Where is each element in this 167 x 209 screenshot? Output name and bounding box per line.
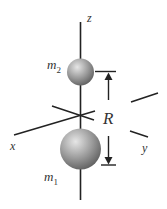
mass-m1-label: m1 <box>44 169 58 187</box>
x-axis-label: x <box>9 139 16 153</box>
two-body-diagram: z x y R m2 m1 <box>0 0 167 209</box>
distance-label: R <box>102 109 114 128</box>
y-axis-far <box>130 131 148 137</box>
mass-m2-label: m2 <box>47 57 61 75</box>
x-axis-far <box>131 93 158 102</box>
r-down-arrow-icon <box>105 157 113 165</box>
y-axis-label: y <box>141 141 148 155</box>
mass-m2-sphere <box>67 59 94 86</box>
mass-m1-sphere <box>60 129 101 170</box>
r-up-arrow-icon <box>105 73 113 81</box>
z-axis-label: z <box>86 11 92 25</box>
